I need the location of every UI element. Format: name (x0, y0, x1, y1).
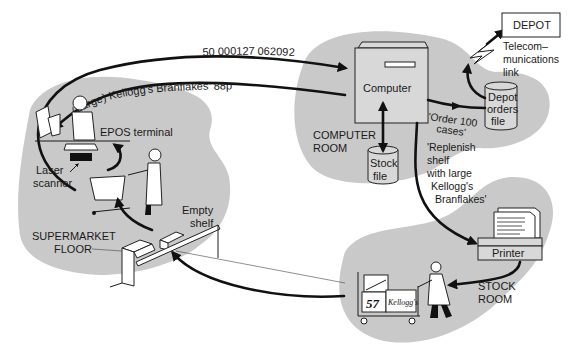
barcode-message: 50 000127 062092 (202, 45, 295, 59)
empty-shelf-label: Empty (182, 204, 214, 216)
svg-text:shelf: shelf (427, 154, 449, 166)
svg-text:orders: orders (487, 103, 519, 115)
epos-diagram: 50 000127 062092 (Large) Kellogg's Branf… (0, 0, 574, 352)
svg-text:ROOM: ROOM (478, 293, 512, 305)
supermarket-floor-label: SUPERMARKET (32, 230, 116, 242)
svg-text:with large: with large (426, 167, 472, 179)
svg-text:Branflakes': Branflakes' (435, 193, 487, 205)
restock-shelf-arrow (173, 253, 344, 297)
printer-label: Printer (492, 247, 525, 259)
svg-text:'Replenish: 'Replenish (427, 141, 476, 153)
svg-text:scanner: scanner (33, 177, 72, 189)
svg-text:munications: munications (503, 53, 559, 65)
computer-room-label: COMPUTER (313, 129, 376, 141)
svg-text:Stock: Stock (370, 157, 398, 169)
stock-room-label: STOCK (478, 280, 516, 292)
telecom-to-depot-arrow (487, 31, 503, 44)
svg-text:shelf: shelf (190, 217, 214, 229)
box-number: 57 (366, 296, 380, 311)
computer-label: Computer (363, 82, 412, 94)
box-brand: Kellogg's (387, 298, 418, 307)
svg-text:file: file (491, 115, 505, 127)
laser-scanner (70, 153, 92, 161)
svg-text:link: link (503, 66, 520, 78)
svg-text:Kellogg's: Kellogg's (431, 180, 473, 192)
laser-scanner-label: Laser (36, 164, 64, 176)
shelf-link-line (176, 251, 345, 283)
depot-orders-file: Depot orders file (485, 82, 519, 130)
computer: Computer (355, 42, 428, 123)
svg-text:Telecom–: Telecom– (503, 40, 548, 52)
stock-file: Stock file (368, 146, 398, 184)
svg-text:FLOOR: FLOOR (54, 243, 92, 255)
svg-text:file: file (373, 170, 387, 182)
svg-text:Depot: Depot (488, 91, 517, 103)
depot-label: DEPOT (513, 19, 551, 31)
epos-terminal-label: EPOS terminal (100, 126, 173, 138)
svg-text:ROOM: ROOM (313, 142, 347, 154)
